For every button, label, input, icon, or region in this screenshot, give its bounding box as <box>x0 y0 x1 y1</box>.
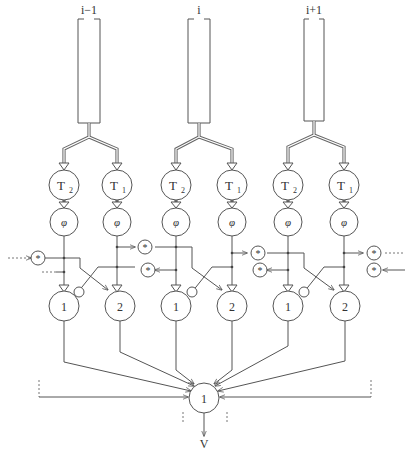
multiplier-node: * <box>253 263 267 277</box>
timer-node-t2: T2 <box>49 170 79 200</box>
svg-text:φ: φ <box>61 216 67 228</box>
svg-text:*: * <box>256 248 261 259</box>
svg-text:T: T <box>169 178 177 193</box>
svg-text:T: T <box>281 178 289 193</box>
svg-text:2: 2 <box>69 186 73 195</box>
interconnect-wiring <box>8 236 405 297</box>
input-bar <box>188 19 210 123</box>
output-node-1: 1 <box>49 291 79 321</box>
summation-node: 1 <box>189 383 219 413</box>
timer-node-t2: T2 <box>161 170 191 200</box>
svg-text:φ: φ <box>229 216 235 228</box>
svg-text:*: * <box>372 248 377 259</box>
column-label: i <box>197 3 201 17</box>
phi-node: φ <box>103 208 131 236</box>
multiplier-node: * <box>367 263 381 277</box>
timer-node-t1: T1 <box>329 170 359 200</box>
phi-nodes: φ φ φ φ φ φ <box>50 208 358 236</box>
multiplier-node: * <box>251 246 265 260</box>
timer-node-t1: T1 <box>102 170 132 200</box>
svg-text:2: 2 <box>181 186 185 195</box>
output-nodes: 1 2 1 2 1 2 <box>49 291 360 321</box>
svg-text:φ: φ <box>341 216 347 228</box>
timer-node-t2: T2 <box>273 170 303 200</box>
svg-text:1: 1 <box>61 300 67 314</box>
svg-text:T: T <box>110 178 118 193</box>
output-node-1: 1 <box>273 291 303 321</box>
svg-text:1: 1 <box>349 186 353 195</box>
svg-text:T: T <box>225 178 233 193</box>
svg-text:*: * <box>146 265 151 276</box>
svg-text:2: 2 <box>342 300 348 314</box>
output-node-2: 2 <box>105 291 135 321</box>
svg-text:2: 2 <box>293 186 297 195</box>
input-bar <box>78 19 100 123</box>
multiplier-node: * <box>367 246 381 260</box>
svg-text:*: * <box>36 253 41 264</box>
column-label: i−1 <box>81 3 97 17</box>
column-group-i-minus-1: i−1 <box>59 3 122 170</box>
phi-node: φ <box>50 208 78 236</box>
diagram-canvas: i−1 i i+1 <box>0 0 408 450</box>
timer-nodes: T2 T1 T2 T1 T2 T1 <box>49 170 359 200</box>
multiplier-node: * <box>141 263 155 277</box>
svg-text:*: * <box>258 265 263 276</box>
svg-text:1: 1 <box>173 300 179 314</box>
timer-to-phi-connectors <box>59 200 349 208</box>
svg-text:φ: φ <box>173 216 179 228</box>
output-node-1: 1 <box>161 291 191 321</box>
column-group-i-plus-1: i+1 <box>283 3 349 170</box>
svg-text:T: T <box>57 178 65 193</box>
output-node-2: 2 <box>330 291 360 321</box>
svg-text:2: 2 <box>117 300 123 314</box>
multiplier-node: * <box>31 251 45 265</box>
split-connector <box>171 123 237 170</box>
output-node-2: 2 <box>217 291 247 321</box>
phi-node: φ <box>218 208 246 236</box>
inhibitory-node <box>187 287 197 297</box>
svg-text:1: 1 <box>285 300 291 314</box>
output-label: V <box>200 437 209 450</box>
input-bar <box>304 19 324 121</box>
multiplier-nodes: * * * * * * * <box>31 240 381 277</box>
svg-text:φ: φ <box>114 216 120 228</box>
svg-text:*: * <box>372 265 377 276</box>
phi-node: φ <box>274 208 302 236</box>
column-group-i: i <box>171 3 237 170</box>
timer-node-t1: T1 <box>217 170 247 200</box>
svg-text:1: 1 <box>201 392 207 406</box>
multiplier-node: * <box>138 240 152 254</box>
svg-text:φ: φ <box>285 216 291 228</box>
split-connector <box>283 121 349 170</box>
inhibitory-node <box>299 287 309 297</box>
phi-node: φ <box>162 208 190 236</box>
svg-text:1: 1 <box>122 186 126 195</box>
inhibitory-node <box>74 287 84 297</box>
phi-node: φ <box>330 208 358 236</box>
svg-text:T: T <box>337 178 345 193</box>
svg-text:*: * <box>143 242 148 253</box>
split-connector <box>59 123 122 170</box>
svg-text:2: 2 <box>229 300 235 314</box>
column-label: i+1 <box>306 3 322 17</box>
svg-text:1: 1 <box>237 186 241 195</box>
